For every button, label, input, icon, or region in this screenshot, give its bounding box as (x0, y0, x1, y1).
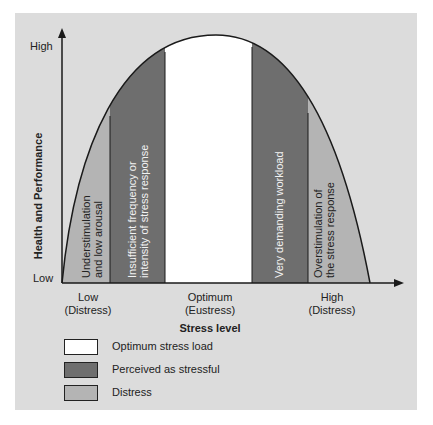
y-axis-arrow-icon (58, 28, 66, 38)
legend-swatch-perceived (64, 362, 98, 378)
zone-label-overstimulation: Overstimulation ofthe stress response (312, 182, 336, 278)
y-axis-high-label: High (30, 40, 53, 53)
y-axis-low-label: Low (33, 272, 53, 285)
x-tick-optimum: Optimum (Eustress) (180, 291, 240, 317)
x-axis-title: Stress level (160, 322, 260, 335)
zone-optimum (165, 20, 252, 283)
zone-label-demanding: Very demanding workload (273, 151, 285, 278)
y-axis-title: Health and Performance (32, 133, 44, 260)
x-tick-low: Low (Distress) (58, 291, 118, 317)
zone-label-insufficient: Insufficient frequency orintensity of st… (126, 145, 150, 278)
legend-swatch-optimum (64, 339, 98, 355)
legend-swatch-distress (64, 385, 98, 401)
zone-label-understimulation: Understimulationand low arousal (80, 195, 104, 278)
x-axis-arrow-icon (394, 279, 404, 287)
x-tick-high: High (Distress) (302, 291, 362, 317)
